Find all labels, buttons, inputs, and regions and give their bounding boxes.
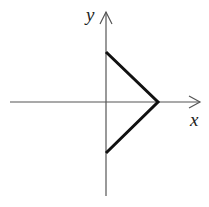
y-axis-label: y [84, 4, 95, 25]
diagram: x y [0, 0, 209, 207]
x-axis-label: x [189, 109, 199, 130]
